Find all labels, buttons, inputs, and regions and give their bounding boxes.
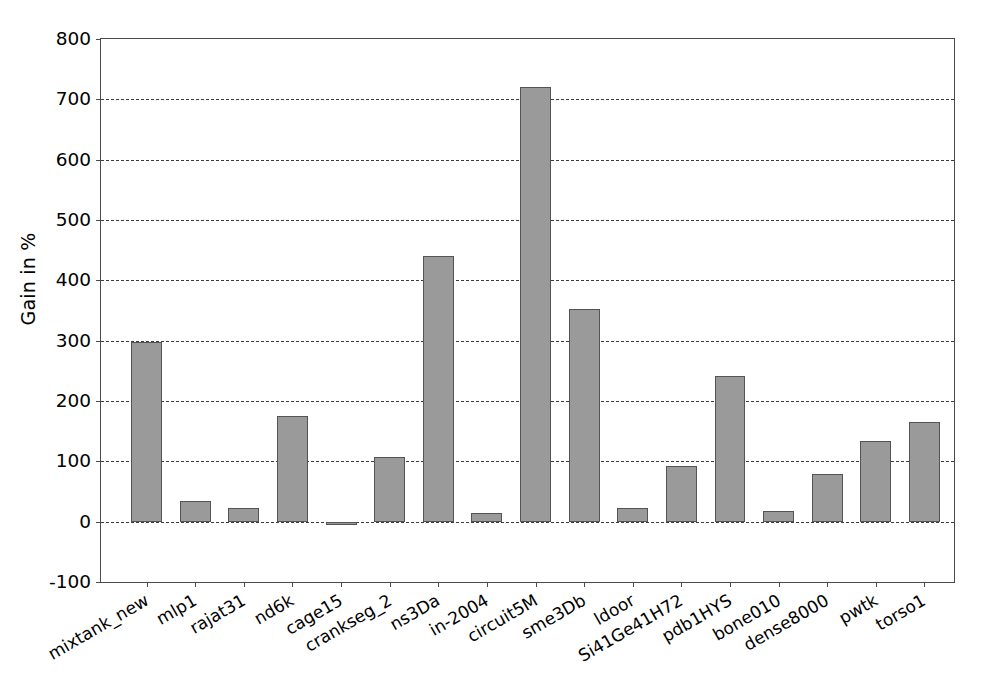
bar-chart-figure: Gain in % -1000100200300400500600700800m… xyxy=(0,0,987,691)
x-tick-mark xyxy=(341,582,342,587)
x-tick-mark xyxy=(681,582,682,587)
y-tick-label: 100 xyxy=(24,450,100,471)
x-tick-mark xyxy=(584,582,585,587)
y-tick-label: 200 xyxy=(24,390,100,411)
x-tick-mark xyxy=(730,582,731,587)
x-tick-label: pwtk xyxy=(835,590,881,628)
x-tick-mark xyxy=(827,582,828,587)
y-tick-label: 0 xyxy=(24,510,100,531)
y-tick-label: 300 xyxy=(24,329,100,350)
y-tick-label: -100 xyxy=(24,571,100,592)
y-tick-label: 400 xyxy=(24,269,100,290)
x-tick-mark xyxy=(536,582,537,587)
x-tick-mark xyxy=(779,582,780,587)
x-tick-label: mixtank_new xyxy=(44,590,152,664)
x-tick-mark xyxy=(292,582,293,587)
x-tick-mark xyxy=(244,582,245,587)
y-tick-label: 700 xyxy=(24,88,100,109)
x-tick-mark xyxy=(438,582,439,587)
plot-area xyxy=(100,38,955,583)
x-tick-mark xyxy=(924,582,925,587)
x-tick-label: rajat31 xyxy=(186,590,249,638)
x-axis-ticks xyxy=(101,39,954,582)
x-tick-label: torso1 xyxy=(872,590,929,634)
x-tick-mark xyxy=(147,582,148,587)
y-tick-label: 500 xyxy=(24,209,100,230)
y-tick-label: 600 xyxy=(24,148,100,169)
x-tick-mark xyxy=(390,582,391,587)
x-tick-mark xyxy=(633,582,634,587)
x-tick-mark xyxy=(876,582,877,587)
y-tick-label: 800 xyxy=(24,28,100,49)
x-tick-mark xyxy=(487,582,488,587)
x-tick-mark xyxy=(195,582,196,587)
